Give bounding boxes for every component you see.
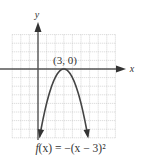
y-axis-arrow-icon [35, 22, 42, 32]
curve-right-arrow-icon [84, 129, 90, 138]
x-axis-arrow-icon [116, 66, 126, 73]
curve-left-arrow-icon [38, 129, 44, 138]
x-axis-label: x [129, 63, 135, 74]
function-caption: f(x) = −(x − 3)² [0, 142, 141, 154]
grid [12, 35, 115, 138]
graph: y x (3, 0) [0, 0, 141, 162]
y-axis-label: y [34, 9, 40, 20]
caption-expression: (x) = −(x − 3)² [39, 142, 106, 154]
vertex-label: (3, 0) [53, 54, 77, 67]
